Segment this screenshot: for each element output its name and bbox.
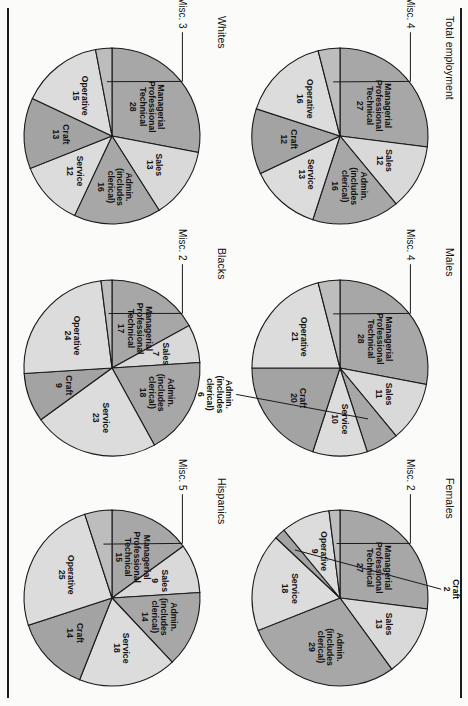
pie-panel-blacks: Blacks ManagerialProfessionalTechnical17… [8, 242, 234, 474]
panel-title: Males [444, 248, 456, 277]
pie-chart: ManagerialProfessionalTechnical27Sales12… [242, 38, 438, 234]
panel-title: Whites [216, 16, 228, 49]
pie-svg: ManagerialProfessionalTechnical28Sales13… [14, 38, 210, 234]
misc-label: Misc. 5 [177, 459, 188, 491]
pie-chart: ManagerialProfessionalTechnical15Sales9A… [14, 500, 210, 696]
figure-page: Total employment ManagerialProfessionalT… [0, 0, 468, 706]
pie-svg: ManagerialProfessionalTechnical15Sales9A… [14, 500, 210, 696]
pie-panel-males: Males ManagerialProfessionalTechnical28S… [236, 242, 462, 474]
panel-title: Females [444, 478, 456, 519]
pie-chart: ManagerialProfessionalTechnical27Sales13… [242, 500, 438, 696]
panel-title: Total employment [444, 16, 456, 100]
figure-rotation-wrapper: Total employment ManagerialProfessionalT… [0, 0, 468, 706]
panel-title: Hispanics [216, 478, 228, 524]
misc-label: Misc. 2 [177, 229, 188, 261]
pie-svg: ManagerialProfessionalTechnical28Sales11… [242, 270, 438, 466]
misc-label: Misc. 2 [405, 459, 416, 491]
pie-chart: ManagerialProfessionalTechnical28Sales13… [14, 38, 210, 234]
craft-callout-label: Craft2 [442, 579, 462, 599]
pie-chart: ManagerialProfessionalTechnical28Sales11… [242, 270, 438, 466]
pie-svg: ManagerialProfessionalTechnical27Sales12… [242, 38, 438, 234]
panel-title: Blacks [216, 248, 228, 280]
pie-panel-whites: Whites ManagerialProfessionalTechnical28… [8, 10, 234, 242]
misc-label: Misc. 4 [405, 229, 416, 261]
pie-panel-females: Females ManagerialProfessionalTechnical2… [236, 472, 462, 704]
pie-panel-total-employment: Total employment ManagerialProfessionalT… [236, 10, 462, 242]
pie-svg: ManagerialProfessionalTechnical27Sales13… [242, 500, 438, 696]
misc-label: Misc. 4 [405, 0, 416, 29]
misc-label: Misc. 3 [177, 0, 188, 29]
pie-svg: ManagerialProfessionalTechnical17Sales7A… [14, 270, 210, 466]
pie-chart: ManagerialProfessionalTechnical17Sales7A… [14, 270, 210, 466]
pie-panel-hispanics: Hispanics ManagerialProfessionalTechnica… [8, 472, 234, 704]
pie-slice-operative [24, 281, 112, 374]
